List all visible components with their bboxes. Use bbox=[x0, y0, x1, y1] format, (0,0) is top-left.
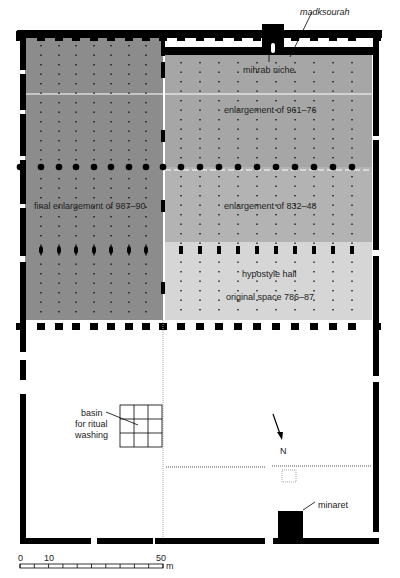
label-enlargement-961: enlargement of 961–76 bbox=[224, 105, 317, 115]
label-final-enlargement: final enlargement of 987–90 bbox=[34, 201, 146, 211]
zone-original-space bbox=[165, 242, 372, 320]
label-enlargement-832: enlargement of 832–48 bbox=[224, 201, 317, 211]
label-original-space: original space 786–87 bbox=[226, 292, 314, 302]
label-madksourah: madksourah bbox=[300, 7, 350, 17]
north-arrow-icon bbox=[273, 414, 283, 440]
svg-text:10: 10 bbox=[44, 553, 54, 563]
svg-text:0: 0 bbox=[18, 553, 23, 563]
svg-text:m: m bbox=[166, 561, 174, 571]
scale-bar: 0 10 50 m bbox=[18, 553, 174, 571]
floor-plan: madksourah mihrab niche enlargement of 9… bbox=[0, 0, 400, 578]
label-basin-3: washing bbox=[74, 430, 108, 440]
label-basin-2: for ritual bbox=[75, 419, 108, 429]
label-north: N bbox=[280, 446, 287, 456]
label-mihrab: mihrab niche bbox=[243, 65, 295, 75]
svg-text:50: 50 bbox=[156, 553, 166, 563]
label-basin-1: basin bbox=[81, 408, 103, 418]
basin bbox=[120, 405, 162, 447]
label-hypostyle: hypostyle hall bbox=[242, 269, 297, 279]
label-minaret: minaret bbox=[318, 500, 349, 510]
